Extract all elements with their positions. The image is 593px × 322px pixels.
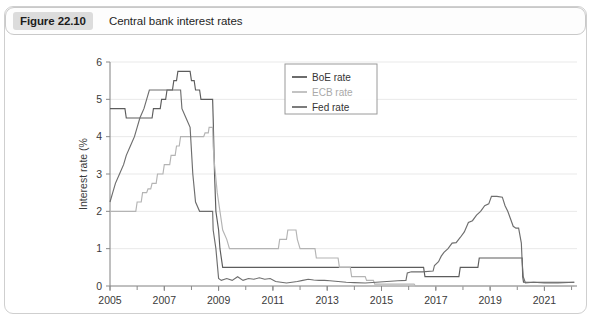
x-tick-label-2019: 2019 <box>478 294 502 306</box>
series-line-ecb <box>110 127 574 286</box>
y-tick-label-2: 2 <box>96 205 102 217</box>
x-tick-label-2017: 2017 <box>424 294 448 306</box>
figure-number-badge: Figure 22.10 <box>13 12 93 30</box>
y-tick-label-0: 0 <box>96 280 102 292</box>
figure-title: Central bank interest rates <box>109 15 243 27</box>
y-tick-label-4: 4 <box>96 130 102 142</box>
x-tick-label-2021: 2021 <box>533 294 557 306</box>
y-tick-label-5: 5 <box>96 93 102 105</box>
legend-label-boe: BoE rate <box>312 72 351 83</box>
legend-label-ecb: ECB rate <box>312 87 353 98</box>
y-axis-title: Interest rate (% <box>77 138 89 210</box>
x-tick-label-2007: 2007 <box>153 294 177 306</box>
x-tick-label-2015: 2015 <box>370 294 394 306</box>
chart-plot-area: 0123456Interest rate (%20052007200920112… <box>5 36 586 313</box>
screenshot-root: Figure 22.10 Central bank interest rates… <box>0 0 593 322</box>
x-tick-label-2011: 2011 <box>262 294 285 306</box>
series-line-fed <box>110 90 574 283</box>
x-tick-label-2009: 2009 <box>207 294 231 306</box>
y-tick-label-6: 6 <box>96 56 102 68</box>
figure-title-bar: Figure 22.10 Central bank interest rates <box>5 7 586 35</box>
y-tick-label-3: 3 <box>96 168 102 180</box>
interest-rate-line-chart: 0123456Interest rate (%20052007200920112… <box>5 36 586 313</box>
x-tick-label-2013: 2013 <box>316 294 340 306</box>
x-tick-label-2005: 2005 <box>98 294 122 306</box>
y-tick-label-1: 1 <box>96 242 102 254</box>
legend-label-fed: Fed rate <box>312 102 350 113</box>
